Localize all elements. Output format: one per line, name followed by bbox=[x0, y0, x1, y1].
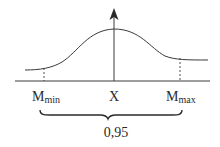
confidence-interval-diagram: Mmin X Mmax 0,95 bbox=[0, 0, 220, 147]
min-bound-label: Mmin bbox=[32, 89, 60, 105]
max-bound-label: Mmax bbox=[166, 89, 196, 105]
distribution-curve bbox=[25, 29, 208, 70]
probability-label: 0,95 bbox=[104, 125, 129, 140]
interval-brace bbox=[40, 110, 182, 119]
center-label: X bbox=[109, 89, 119, 104]
